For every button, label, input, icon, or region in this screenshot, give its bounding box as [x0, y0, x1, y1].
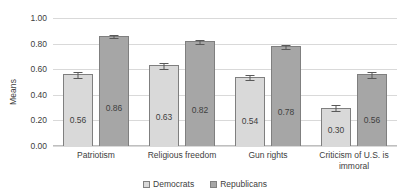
plot-area: 1.000.800.600.400.200.00 0.560.860.630.8… — [53, 18, 397, 146]
bar-value-label: 0.63 — [150, 113, 178, 122]
bar-value-label: 0.82 — [186, 106, 214, 115]
error-bar — [200, 40, 201, 45]
bar[interactable]: 0.86 — [99, 36, 129, 146]
bar[interactable]: 0.56 — [357, 74, 387, 146]
error-bar — [372, 72, 373, 80]
bar[interactable]: 0.78 — [271, 46, 301, 146]
legend-item[interactable]: Democrats — [143, 180, 194, 189]
error-bar — [78, 72, 79, 80]
x-axis-category-label: Religious freedom — [139, 150, 225, 171]
gridline — [53, 146, 397, 147]
legend-swatch-icon — [143, 181, 150, 188]
legend-item[interactable]: Republicans — [210, 180, 267, 189]
legend-label: Democrats — [153, 180, 194, 189]
x-axis-labels: PatriotismReligious freedomGun rightsCri… — [53, 150, 397, 171]
error-bar — [164, 63, 165, 69]
bar-group: 0.300.56 — [311, 18, 397, 146]
bar[interactable]: 0.30 — [321, 108, 351, 146]
y-axis-tick-label: 0.00 — [9, 142, 47, 151]
bar-value-label: 0.86 — [100, 104, 128, 113]
bar-value-label: 0.30 — [322, 126, 350, 135]
bar-value-label: 0.78 — [272, 108, 300, 117]
bar-group: 0.630.82 — [139, 18, 225, 146]
error-bar — [114, 35, 115, 40]
bar[interactable]: 0.56 — [63, 74, 93, 146]
y-axis-tick-label: 0.80 — [9, 40, 47, 49]
bar[interactable]: 0.54 — [235, 77, 265, 146]
x-axis-category-label: Gun rights — [225, 150, 311, 171]
bar[interactable]: 0.82 — [185, 41, 215, 146]
y-axis-tick-label: 1.00 — [9, 14, 47, 23]
chart-legend: DemocratsRepublicans — [0, 180, 410, 189]
y-axis-title: Means — [8, 2, 18, 62]
y-axis-tick-label: 0.40 — [9, 91, 47, 100]
x-axis-category-label: Criticism of U.S. is immoral — [311, 150, 397, 171]
bar-chart: Means 1.000.800.600.400.200.00 0.560.860… — [0, 0, 410, 195]
x-axis-category-label: Patriotism — [53, 150, 139, 171]
y-axis-tick-label: 0.60 — [9, 65, 47, 74]
bar-value-label: 0.56 — [358, 116, 386, 125]
error-bar — [250, 75, 251, 81]
bar-value-label: 0.56 — [64, 116, 92, 125]
bar-group: 0.540.78 — [225, 18, 311, 146]
bar-group: 0.560.86 — [53, 18, 139, 146]
error-bar — [336, 105, 337, 113]
bar-value-label: 0.54 — [236, 117, 264, 126]
legend-swatch-icon — [210, 181, 217, 188]
bar[interactable]: 0.63 — [149, 65, 179, 146]
y-axis-tick-label: 0.20 — [9, 116, 47, 125]
error-bar — [286, 45, 287, 50]
legend-label: Republicans — [220, 180, 267, 189]
bar-groups: 0.560.860.630.820.540.780.300.56 — [53, 18, 397, 146]
